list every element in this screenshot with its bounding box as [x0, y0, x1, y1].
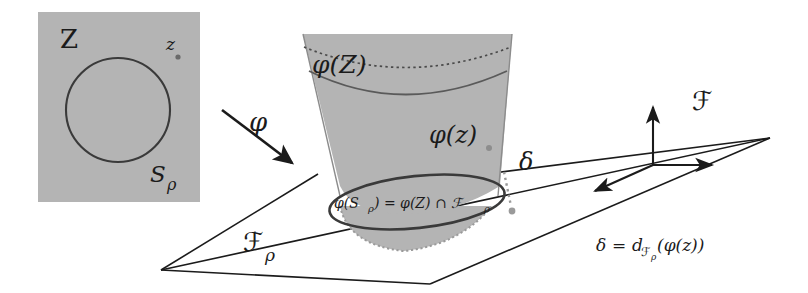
- label-intersection-head-sub: ρ: [367, 203, 374, 214]
- label-intersection-rest-sub: ρ: [483, 203, 490, 214]
- label-intersection: φ(S ρ ) = φ(Z) ∩ ℱ ρ: [334, 195, 490, 214]
- label-phi-of-z: φ(z): [429, 121, 477, 149]
- equation-distance-sub2: ρ: [650, 252, 657, 262]
- equation-argument: (φ(z)): [657, 235, 704, 255]
- label-sphere-S: S: [150, 161, 166, 187]
- label-frame-F: ℱ: [692, 86, 712, 116]
- label-space-Z: Z: [60, 24, 78, 54]
- label-plane-F-rho: ℱ ρ: [243, 227, 275, 265]
- label-intersection-rest: ) = φ(Z) ∩ ℱ: [373, 195, 465, 211]
- equation-distance-sub: ℱ: [641, 245, 651, 259]
- label-phi-of-Z: φ(Z): [312, 50, 366, 79]
- label-point-z: z: [165, 34, 176, 54]
- equation-lhs: δ: [596, 235, 606, 255]
- equation-delta: δ = d ℱ ρ (φ(z)): [596, 235, 704, 262]
- label-delta: δ: [519, 148, 533, 176]
- label-sphere-S-rho: S ρ: [150, 161, 177, 194]
- label-plane-F: ℱ: [243, 227, 263, 257]
- label-phi-map: φ: [249, 107, 268, 137]
- label-sphere-subscript: ρ: [166, 175, 177, 194]
- equation-equals: =: [612, 235, 626, 255]
- figure-canvas: Z z S ρ φ φ(Z) φ(z) φ(S ρ ) = φ(Z) ∩ ℱ ρ…: [0, 0, 808, 293]
- label-plane-F-subscript: ρ: [264, 245, 275, 265]
- label-intersection-head: φ(S: [334, 195, 359, 211]
- diagram-labels-svg: Z z S ρ φ φ(Z) φ(z) φ(S ρ ) = φ(Z) ∩ ℱ ρ…: [0, 0, 808, 293]
